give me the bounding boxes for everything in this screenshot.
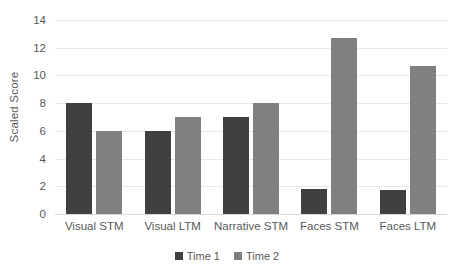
bar	[175, 117, 201, 214]
bar-group	[290, 20, 368, 214]
x-axis-tick-label: Faces LTM	[369, 216, 447, 236]
bar-group	[133, 20, 211, 214]
bar-group	[55, 20, 133, 214]
x-axis-tick-labels: Visual STMVisual LTMNarrative STMFaces S…	[55, 216, 447, 236]
bar	[96, 131, 122, 214]
bar-group	[212, 20, 290, 214]
legend-item-label: Time 2	[246, 250, 279, 262]
bar-group	[369, 20, 447, 214]
y-axis-tick-label: 8	[40, 97, 46, 109]
chart-legend: Time 1Time 2	[0, 250, 454, 262]
bar	[253, 103, 279, 214]
legend-swatch-icon	[175, 252, 183, 260]
y-axis-tick-label: 12	[33, 42, 46, 54]
bar	[410, 66, 436, 214]
y-axis-tick-label: 0	[40, 208, 46, 220]
legend-item-label: Time 1	[187, 250, 220, 262]
gridline	[55, 214, 447, 215]
y-axis-tick-label: 10	[33, 69, 46, 81]
x-axis-tick-label: Faces STM	[290, 216, 368, 236]
x-axis-tick-label: Visual STM	[55, 216, 133, 236]
legend-swatch-icon	[234, 252, 242, 260]
x-axis-tick-label: Narrative STM	[212, 216, 290, 236]
bar-groups	[55, 20, 447, 214]
bar	[223, 117, 249, 214]
bar	[380, 190, 406, 214]
bar-chart: Scaled Score 02468101214 Visual STMVisua…	[0, 0, 454, 274]
y-axis-tick-label: 2	[40, 180, 46, 192]
y-axis-tick-label: 6	[40, 125, 46, 137]
bar	[145, 131, 171, 214]
legend-item[interactable]: Time 1	[175, 250, 220, 262]
y-axis-tick-label: 14	[33, 14, 46, 26]
bar	[301, 189, 327, 214]
y-axis-tick-label: 4	[40, 153, 46, 165]
bar	[331, 38, 357, 214]
y-axis-tick-labels: 02468101214	[0, 0, 52, 274]
bar	[66, 103, 92, 214]
legend-item[interactable]: Time 2	[234, 250, 279, 262]
x-axis-tick-label: Visual LTM	[133, 216, 211, 236]
plot-area	[55, 20, 447, 214]
